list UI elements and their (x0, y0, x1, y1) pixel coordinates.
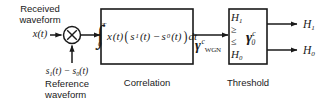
threshold-gamma-value: γc0 (246, 29, 255, 47)
threshold-gamma-subscript: 0 (252, 38, 256, 47)
threshold-h0: H (231, 48, 239, 60)
threshold-hypothesis-upper: H1 (231, 11, 246, 24)
output-label-h1: H1 (303, 18, 315, 33)
reference-end: (t) (79, 66, 88, 76)
paren-open: ( (125, 29, 129, 44)
threshold-hypothesis-lower: H0 (231, 48, 246, 61)
output-h1-subscript: 1 (311, 24, 315, 32)
integrand-s1: s (130, 30, 134, 42)
output-h0-subscript: 0 (311, 50, 315, 58)
input-signal-t: (t) (37, 28, 47, 39)
reference-mid: (t) − (52, 66, 72, 76)
threshold-compare-geq: ≥ (231, 24, 246, 36)
integrand-s0: s (161, 30, 165, 42)
integrand-x-arg: (t) (113, 30, 123, 42)
threshold-test-expression: H1 ≥ ≤ H0 γc0 (229, 11, 267, 63)
received-waveform-line2: waveform (19, 14, 60, 25)
reference-waveform-line1: Reference (45, 78, 89, 89)
received-waveform-caption: Received waveform (19, 3, 60, 25)
threshold-compare-leq: ≤ (231, 36, 246, 48)
gamma-wgn-label: γcWGN (195, 38, 221, 55)
reference-waveform-caption: Reference waveform (45, 78, 89, 100)
input-signal-symbol: x(t) (33, 28, 48, 40)
paren-close: ) (183, 29, 187, 44)
threshold-block-caption: Threshold (227, 78, 269, 89)
integrand-s0-arg: (t) (171, 30, 181, 42)
threshold-h1-subscript: 1 (239, 17, 242, 24)
integrand-mid: (t) − (140, 30, 161, 42)
threshold-h1: H (231, 11, 239, 23)
correlation-receiver-diagram: Received waveform x(t) s1(t) − s0(t) Ref… (0, 0, 326, 108)
reference-signal-expression: s1(t) − s0(t) (46, 66, 88, 77)
gamma-wgn-subscript: WGN (205, 46, 221, 54)
integrand-s0-subscript: 0 (167, 32, 170, 40)
correlation-block-caption: Correlation (124, 78, 170, 89)
gamma-wgn-symbol: γ (195, 38, 201, 53)
integral-sign: T ∫ 0 (97, 24, 106, 48)
threshold-hypothesis-column: H1 ≥ ≤ H0 (231, 11, 246, 61)
correlation-integral-formula: T ∫ 0 x(t) (s1(t) − s0(t)) dt (97, 24, 197, 48)
output-label-h0: H0 (303, 44, 315, 59)
integrand-x: x (107, 30, 112, 42)
threshold-h0-subscript: 0 (239, 54, 242, 61)
integral-lower-limit: 0 (98, 41, 102, 49)
received-waveform-line1: Received (19, 3, 60, 14)
reference-waveform-line2: waveform (45, 89, 89, 100)
integrand-s1-subscript: 1 (135, 32, 138, 40)
